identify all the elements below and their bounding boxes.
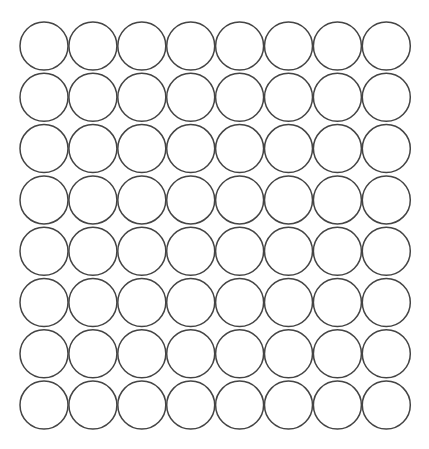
circle-r4-c2 <box>69 176 117 224</box>
circle-r6-c2 <box>69 279 117 327</box>
circle-r6-c7 <box>313 279 361 327</box>
circle-r8-c8 <box>362 381 410 429</box>
circle-r8-c7 <box>313 381 361 429</box>
circle-r6-c6 <box>265 279 313 327</box>
circle-r3-c3 <box>118 125 166 173</box>
circle-r6-c5 <box>216 279 264 327</box>
circle-r4-c5 <box>216 176 264 224</box>
circle-r1-c4 <box>167 22 215 70</box>
circle-r8-c4 <box>167 381 215 429</box>
circle-r2-c4 <box>167 73 215 121</box>
circle-r7-c1 <box>20 330 68 378</box>
circle-r7-c6 <box>265 330 313 378</box>
circle-r7-c2 <box>69 330 117 378</box>
circle-r3-c6 <box>265 125 313 173</box>
circle-r6-c1 <box>20 279 68 327</box>
circle-r3-c1 <box>20 125 68 173</box>
circle-r7-c8 <box>362 330 410 378</box>
circle-r5-c3 <box>118 227 166 275</box>
circle-r7-c5 <box>216 330 264 378</box>
circle-r5-c1 <box>20 227 68 275</box>
circle-r1-c1 <box>20 22 68 70</box>
circle-r5-c2 <box>69 227 117 275</box>
circle-r2-c3 <box>118 73 166 121</box>
circle-r4-c1 <box>20 176 68 224</box>
circle-r2-c7 <box>313 73 361 121</box>
circle-r3-c5 <box>216 125 264 173</box>
circle-r3-c4 <box>167 125 215 173</box>
circle-r8-c1 <box>20 381 68 429</box>
circle-r1-c6 <box>265 22 313 70</box>
circle-r7-c7 <box>313 330 361 378</box>
circle-r5-c6 <box>265 227 313 275</box>
background <box>0 0 429 449</box>
circle-r1-c3 <box>118 22 166 70</box>
circle-r6-c4 <box>167 279 215 327</box>
circle-r5-c5 <box>216 227 264 275</box>
circle-r1-c8 <box>362 22 410 70</box>
circle-r2-c6 <box>265 73 313 121</box>
circle-r5-c8 <box>362 227 410 275</box>
circle-r1-c2 <box>69 22 117 70</box>
circle-r4-c3 <box>118 176 166 224</box>
circle-r4-c7 <box>313 176 361 224</box>
circle-r5-c4 <box>167 227 215 275</box>
circle-r2-c5 <box>216 73 264 121</box>
circle-r3-c8 <box>362 125 410 173</box>
circle-r8-c6 <box>265 381 313 429</box>
circle-r4-c6 <box>265 176 313 224</box>
circle-r2-c2 <box>69 73 117 121</box>
circle-r4-c4 <box>167 176 215 224</box>
circle-r2-c8 <box>362 73 410 121</box>
circle-r5-c7 <box>313 227 361 275</box>
circle-r6-c8 <box>362 279 410 327</box>
circle-r7-c4 <box>167 330 215 378</box>
circle-r1-c5 <box>216 22 264 70</box>
circle-r2-c1 <box>20 73 68 121</box>
circle-r3-c2 <box>69 125 117 173</box>
circle-r1-c7 <box>313 22 361 70</box>
circle-r8-c2 <box>69 381 117 429</box>
circle-grid-diagram <box>0 0 429 449</box>
circle-r4-c8 <box>362 176 410 224</box>
circle-r8-c5 <box>216 381 264 429</box>
circle-r7-c3 <box>118 330 166 378</box>
circle-r3-c7 <box>313 125 361 173</box>
circle-r8-c3 <box>118 381 166 429</box>
circle-r6-c3 <box>118 279 166 327</box>
